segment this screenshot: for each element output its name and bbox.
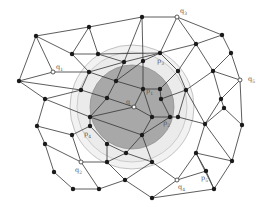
- mesh-node: [150, 196, 154, 200]
- mesh-node: [176, 69, 180, 73]
- mesh-edge: [19, 81, 81, 90]
- mesh-node: [184, 88, 188, 92]
- mesh-node: [87, 70, 91, 74]
- mesh-node: [105, 142, 109, 146]
- mesh-node: [43, 97, 47, 101]
- mesh-edge: [19, 81, 45, 99]
- mesh-node: [229, 51, 233, 55]
- mesh-edge: [177, 153, 196, 180]
- mesh-edge: [37, 126, 72, 135]
- mesh-edge: [196, 35, 222, 44]
- mesh-node: [203, 122, 207, 126]
- mesh-edge: [36, 27, 89, 36]
- mesh-edge: [222, 35, 231, 53]
- query-point-node: [238, 78, 242, 82]
- mesh-node: [17, 79, 21, 83]
- mesh-node: [140, 15, 144, 19]
- mesh-edge: [54, 172, 73, 189]
- mesh-node: [88, 124, 92, 128]
- mesh-node: [124, 151, 128, 155]
- mesh-node: [52, 170, 56, 174]
- mesh-node: [105, 96, 109, 100]
- mesh-node: [158, 51, 162, 55]
- mesh-node: [43, 142, 47, 146]
- mesh-edge: [125, 180, 152, 198]
- mesh-node: [34, 34, 38, 38]
- mesh-node: [176, 115, 180, 119]
- mesh-node: [204, 169, 208, 173]
- mesh-edge: [81, 162, 99, 189]
- mesh-edge: [72, 54, 89, 72]
- mesh-node: [141, 87, 145, 91]
- mesh-edge: [205, 124, 232, 161]
- mesh-node: [150, 115, 154, 119]
- mesh-edge: [240, 80, 242, 125]
- query-point-node: [175, 178, 179, 182]
- mesh-node: [122, 60, 126, 64]
- mesh-node: [222, 106, 226, 110]
- mesh-edge: [152, 162, 177, 180]
- mesh-edge: [36, 36, 53, 72]
- mesh-node: [220, 33, 224, 37]
- mesh-node: [87, 25, 91, 29]
- mesh-edge: [19, 36, 36, 81]
- mesh-node: [114, 79, 118, 83]
- label-q3: q3: [180, 7, 187, 16]
- mesh-edge: [232, 125, 242, 161]
- query-point-node: [79, 160, 83, 164]
- mesh-node: [240, 123, 244, 127]
- mesh-edge: [205, 108, 224, 124]
- mesh-edge: [160, 17, 177, 53]
- mesh-node: [212, 187, 216, 191]
- mesh-node: [79, 88, 83, 92]
- mesh-edge: [213, 53, 231, 71]
- mesh-node: [194, 42, 198, 46]
- mesh-node: [168, 115, 172, 119]
- mesh-edge: [214, 161, 232, 189]
- mesh-edge: [99, 180, 125, 189]
- mesh-edge: [224, 108, 242, 125]
- mesh-edge: [19, 72, 53, 81]
- mesh-node: [105, 160, 109, 164]
- label-q2: q2: [75, 166, 82, 175]
- mesh-node: [140, 133, 144, 137]
- mesh-edge: [37, 99, 45, 126]
- mesh-node: [97, 187, 101, 191]
- mesh-node: [150, 160, 154, 164]
- mesh-node: [158, 87, 162, 91]
- mesh-node: [123, 178, 127, 182]
- mesh-edge: [221, 80, 240, 99]
- query-point-node: [51, 70, 55, 74]
- mesh-edge: [36, 36, 72, 54]
- mesh-node: [96, 52, 100, 56]
- query-point-node: [132, 105, 136, 109]
- mesh-edge: [186, 71, 213, 90]
- mesh-node: [211, 69, 215, 73]
- mesh-node: [194, 151, 198, 155]
- mesh-node: [141, 59, 145, 63]
- mesh-edge: [231, 53, 240, 80]
- mesh-edge: [196, 124, 205, 153]
- mesh-edge: [205, 99, 221, 124]
- mesh-node: [35, 124, 39, 128]
- mesh-edge: [196, 44, 213, 71]
- mesh-node: [88, 115, 92, 119]
- label-q5: q5: [248, 75, 255, 84]
- mesh-node: [230, 159, 234, 163]
- mesh-diagram: qq1q2q3q4q5p1p2p3p4p5: [0, 0, 268, 207]
- mesh-edge: [213, 71, 221, 99]
- mesh-node: [219, 97, 223, 101]
- mesh-edge: [72, 27, 89, 54]
- mesh-edge: [89, 17, 142, 27]
- label-q4: q4: [178, 183, 185, 192]
- mesh-node: [70, 52, 74, 56]
- label-q1: q1: [56, 63, 63, 72]
- mesh-edge: [89, 27, 98, 54]
- mesh-edge: [37, 126, 45, 144]
- mesh-node: [70, 133, 74, 137]
- label-q: q: [126, 98, 130, 106]
- mesh-node: [71, 187, 75, 191]
- query-point-node: [175, 15, 179, 19]
- mesh-edge: [213, 71, 240, 80]
- mesh-node: [159, 97, 163, 101]
